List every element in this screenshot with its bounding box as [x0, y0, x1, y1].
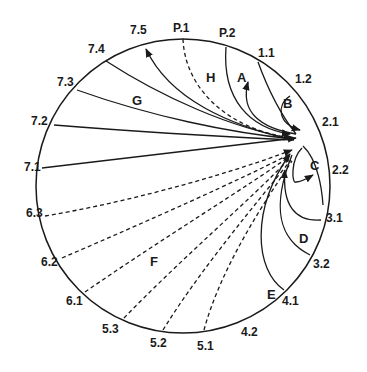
label-7.3: 7.3 [57, 75, 74, 89]
label-1.2: 1.2 [295, 72, 312, 86]
label-P.1: P.1 [173, 21, 190, 35]
label-7.4: 7.4 [88, 42, 105, 56]
label-4.2: 4.2 [241, 325, 258, 339]
label-6.1: 6.1 [66, 294, 83, 308]
label-6.2: 6.2 [41, 255, 58, 269]
edge-7.2-hub [54, 125, 294, 140]
region-E: E [267, 287, 276, 302]
edge-3.1-hub-D [285, 170, 321, 220]
label-2.2: 2.2 [332, 163, 349, 177]
perimeter-labels: P.1 P.2 1.1 1.2 2.1 2.2 3.1 3.2 4.1 4.2 … [24, 21, 349, 353]
circular-flow-diagram: P.1 P.2 1.1 1.2 2.1 2.2 3.1 3.2 4.1 4.2 … [0, 0, 367, 372]
edge-7.1-hub [42, 138, 296, 168]
region-D: D [299, 231, 308, 246]
region-A: A [237, 70, 247, 85]
region-B: B [283, 96, 292, 111]
label-7.2: 7.2 [31, 114, 48, 128]
label-5.1: 5.1 [197, 339, 214, 353]
region-labels: A B C D E F G H [132, 70, 320, 302]
label-1.1: 1.1 [258, 46, 275, 60]
label-3.2: 3.2 [313, 257, 330, 271]
edge-5.3-hub [124, 158, 290, 318]
label-5.2: 5.2 [150, 336, 167, 350]
label-4.1: 4.1 [282, 294, 299, 308]
label-2.1: 2.1 [322, 115, 339, 129]
label-7.1: 7.1 [24, 160, 41, 174]
label-7.5: 7.5 [130, 23, 147, 37]
edge-5.1-hub [204, 161, 292, 330]
edge-6.1-hub [85, 156, 290, 292]
edge-6.3-hub [45, 150, 292, 216]
outer-circle [36, 39, 330, 333]
region-H: H [206, 70, 215, 85]
label-5.3: 5.3 [102, 322, 119, 336]
label-6.3: 6.3 [26, 206, 43, 220]
region-F: F [150, 254, 158, 269]
region-G: G [132, 93, 142, 108]
region-C: C [310, 158, 320, 173]
label-3.1: 3.1 [326, 211, 343, 225]
label-P.2: P.2 [219, 26, 236, 40]
